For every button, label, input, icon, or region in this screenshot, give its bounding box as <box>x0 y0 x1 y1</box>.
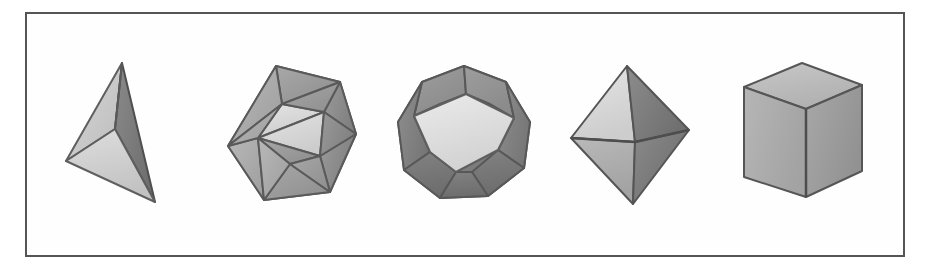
dodecahedron-icon <box>390 60 540 210</box>
solid-dodecahedron: Dodecahedron <box>385 47 545 222</box>
tetrahedron-icon <box>59 55 189 215</box>
octahedron-icon <box>565 60 705 210</box>
solid-octahedron: Octahedron <box>555 47 715 222</box>
icosahedron-icon <box>220 60 370 210</box>
figure-root: Tetrahedron <box>0 0 934 269</box>
platonic-solids-row: Tetrahedron <box>25 12 905 257</box>
solid-icosahedron: Icosahedron <box>215 47 375 222</box>
solid-cube: Cube <box>726 47 886 222</box>
solid-tetrahedron: Tetrahedron <box>44 47 204 222</box>
cube-icon <box>736 55 876 215</box>
